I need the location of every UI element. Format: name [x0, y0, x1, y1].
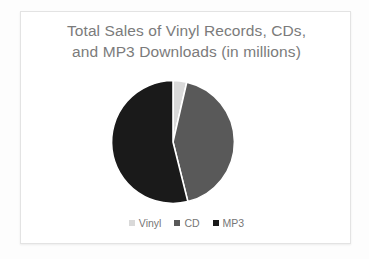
- pie-slice-group: [112, 81, 235, 204]
- legend-swatch-mp3: [213, 220, 219, 226]
- chart-figure: Total Sales of Vinyl Records, CDs, and M…: [0, 0, 369, 259]
- legend-swatch-vinyl: [129, 220, 135, 226]
- pie-chart-area: [21, 12, 352, 245]
- legend-label-cd: CD: [184, 217, 199, 229]
- chart-plate: Total Sales of Vinyl Records, CDs, and M…: [20, 11, 351, 244]
- pie-chart-svg: [109, 78, 237, 206]
- legend-item-mp3: MP3: [213, 217, 245, 229]
- legend-label-mp3: MP3: [223, 217, 245, 229]
- chart-legend: VinylCDMP3: [21, 217, 352, 229]
- legend-label-vinyl: Vinyl: [139, 217, 162, 229]
- legend-item-cd: CD: [174, 217, 199, 229]
- legend-swatch-cd: [174, 220, 180, 226]
- legend-item-vinyl: Vinyl: [129, 217, 162, 229]
